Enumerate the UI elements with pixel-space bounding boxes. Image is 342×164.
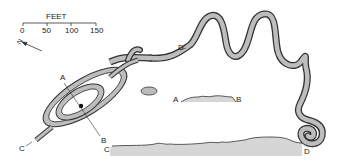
scale-tick-100: 100 (65, 27, 78, 35)
label-b-profile: B (236, 96, 241, 104)
label-d-plan: D (178, 44, 184, 52)
serpent-body (150, 14, 322, 144)
profile-a-b (181, 96, 236, 102)
scale-title: FEET (46, 13, 66, 21)
serpent-head (26, 48, 186, 146)
scale-bar (23, 23, 96, 26)
label-d-profile: D (304, 148, 310, 156)
label-a-profile: A (173, 96, 178, 104)
scale-tick-50: 50 (42, 27, 51, 35)
label-c-plan: C (19, 145, 25, 153)
label-b-plan: B (101, 137, 106, 145)
label-c-profile: C (104, 146, 110, 154)
scale-tick-0: 0 (20, 27, 24, 35)
profile-c-d (110, 137, 302, 156)
label-a-plan: A (60, 74, 65, 82)
north-arrow-icon (22, 42, 42, 51)
scale-tick-150: 150 (90, 27, 103, 35)
serpent-mound-diagram (0, 0, 342, 164)
